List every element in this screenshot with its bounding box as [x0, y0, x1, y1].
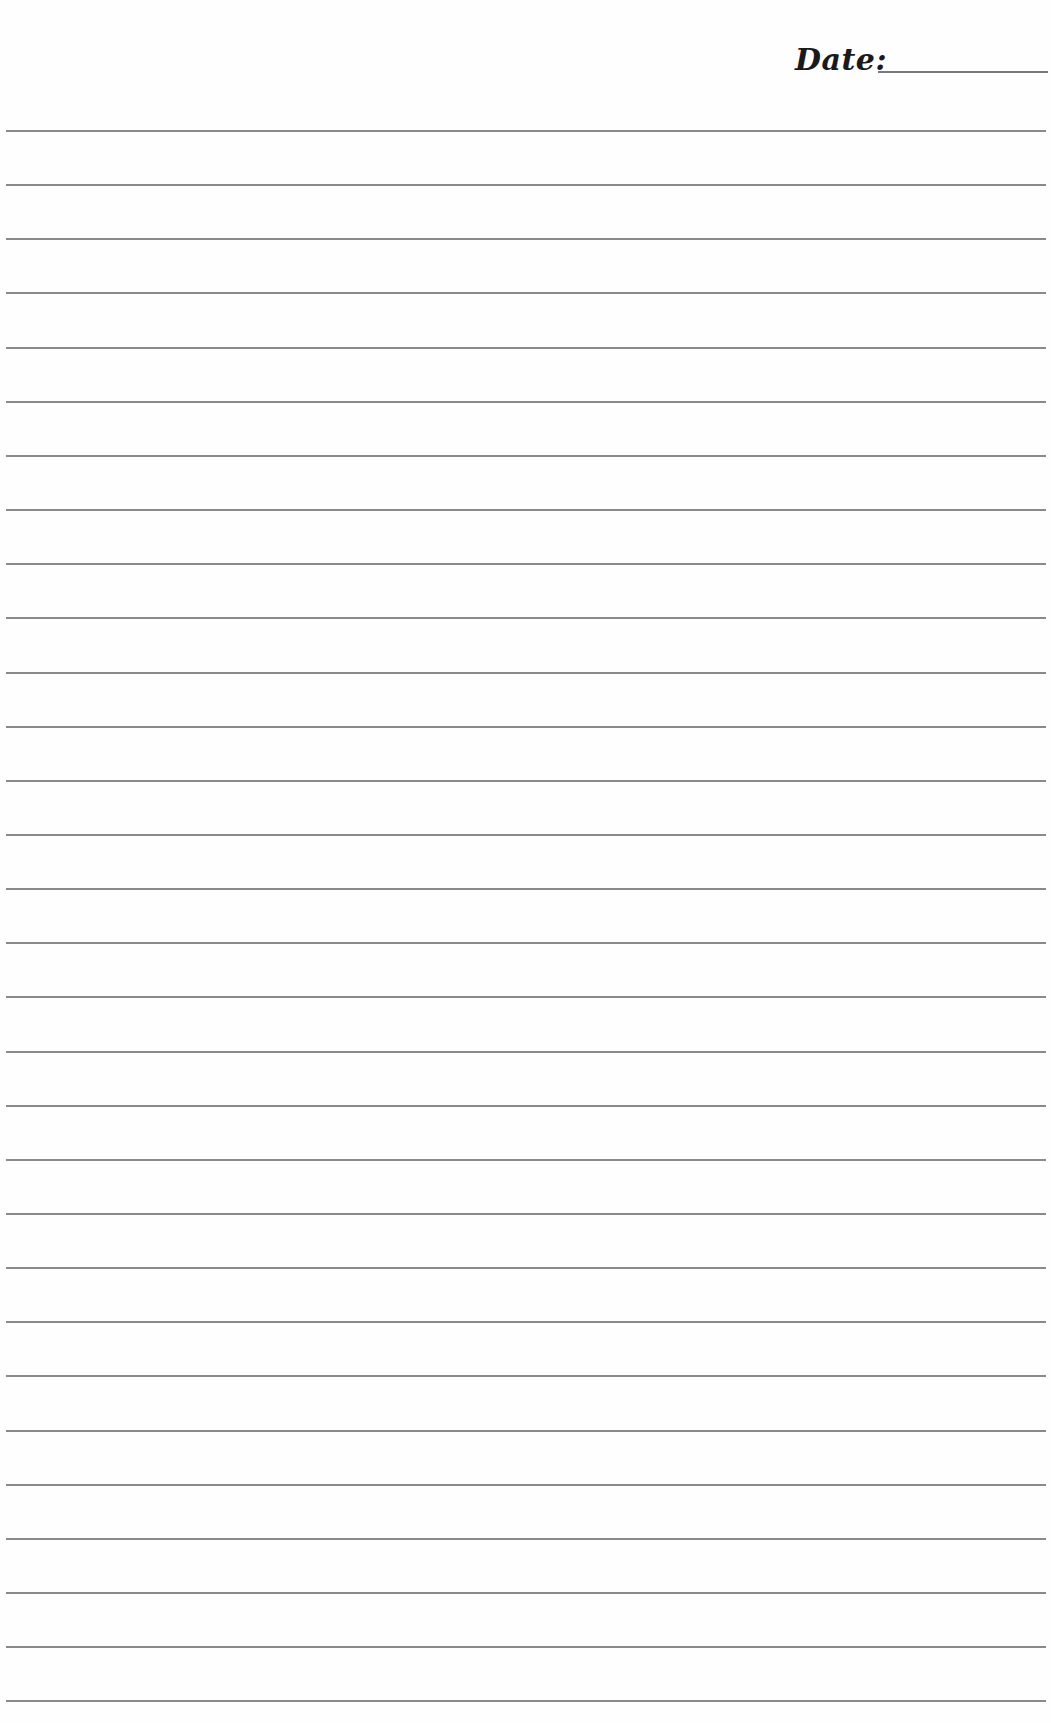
- ruled-line: [6, 238, 1046, 240]
- ruled-line: [6, 1430, 1046, 1432]
- ruled-line: [6, 563, 1046, 565]
- ruled-line: [6, 834, 1046, 836]
- ruled-line: [6, 1375, 1046, 1377]
- ruled-line: [6, 1592, 1046, 1594]
- ruled-line: [6, 1213, 1046, 1215]
- date-label: Date:: [795, 42, 887, 77]
- ruled-line: [6, 1484, 1046, 1486]
- ruled-line: [6, 1538, 1046, 1540]
- ruled-line: [6, 726, 1046, 728]
- ruled-line: [6, 1646, 1046, 1648]
- ruled-line: [6, 130, 1046, 132]
- ruled-line: [6, 401, 1046, 403]
- ruled-line: [6, 1051, 1046, 1053]
- ruled-line: [6, 942, 1046, 944]
- ruled-line: [6, 672, 1046, 674]
- ruled-line: [6, 888, 1046, 890]
- ruled-line: [6, 780, 1046, 782]
- ruled-line: [6, 347, 1046, 349]
- ruled-line: [6, 509, 1046, 511]
- lined-paper-page: Date:: [0, 0, 1051, 1723]
- ruled-line: [6, 1321, 1046, 1323]
- ruled-line: [6, 1700, 1046, 1702]
- ruled-line: [6, 455, 1046, 457]
- ruled-line: [6, 1267, 1046, 1269]
- ruled-line: [6, 1105, 1046, 1107]
- ruled-line: [6, 1159, 1046, 1161]
- date-field[interactable]: [878, 71, 1048, 73]
- ruled-line: [6, 617, 1046, 619]
- ruled-line: [6, 996, 1046, 998]
- ruled-line: [6, 292, 1046, 294]
- ruled-line: [6, 184, 1046, 186]
